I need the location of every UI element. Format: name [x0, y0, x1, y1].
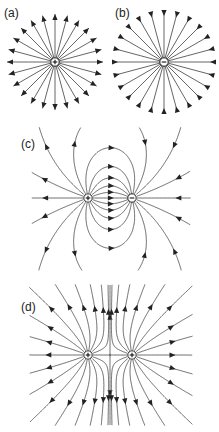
arrow-head: [72, 250, 77, 256]
arrow-head: [133, 399, 138, 406]
arrow-head: [13, 81, 19, 86]
field-line: [74, 128, 86, 194]
arrow-head: [46, 340, 52, 345]
field-line: [30, 316, 85, 352]
arrow-head: [114, 397, 119, 403]
arrow-head: [122, 306, 127, 312]
field-line: [136, 358, 193, 396]
field-line: [32, 172, 84, 196]
field-line: [118, 50, 164, 62]
arrow-head: [52, 14, 57, 20]
field-line: [92, 358, 104, 425]
arrow-head: [169, 365, 175, 370]
arrow-head: [161, 108, 166, 114]
arrow-head: [167, 379, 173, 384]
field-line: [43, 16, 55, 62]
arrow-head: [108, 164, 114, 169]
field-line: [55, 16, 67, 62]
arrow-head: [108, 216, 114, 221]
arrow-head: [108, 201, 114, 206]
arrow-head: [142, 252, 147, 258]
arrow-head: [47, 326, 53, 331]
arrow-head: [13, 38, 19, 43]
field-line: [30, 358, 85, 394]
arrow-head: [122, 398, 127, 404]
arrow-head: [108, 145, 114, 150]
field-line: [43, 62, 55, 108]
arrow-head: [7, 59, 13, 64]
field-line: [152, 16, 164, 62]
field-line: [164, 50, 210, 62]
arrow-head: [47, 378, 53, 383]
arrow-head: [168, 325, 174, 330]
field-line: [130, 360, 145, 426]
arrow-head: [197, 95, 203, 101]
arrow-head: [108, 183, 114, 188]
arrow-head: [108, 246, 114, 251]
field-line: [164, 16, 176, 62]
arrow-head: [93, 398, 98, 404]
arrow-head: [147, 400, 152, 406]
field-line: [152, 62, 164, 108]
arrow-head: [31, 20, 36, 26]
arrow-head: [114, 307, 119, 313]
arrow-head: [93, 306, 98, 312]
field-line: [75, 360, 90, 426]
arrow-head: [67, 400, 72, 406]
field-line: [118, 62, 164, 74]
arrow-head: [112, 59, 118, 64]
arrow-head: [108, 208, 114, 213]
arrow-head: [161, 10, 166, 16]
arrow-head: [31, 97, 36, 103]
arrow-head: [108, 195, 114, 200]
field-line: [164, 62, 210, 74]
arrow-head: [97, 59, 103, 64]
arrow-head: [90, 81, 96, 86]
arrow-head: [74, 97, 79, 103]
field-line: [39, 201, 84, 270]
arrow-head: [187, 16, 192, 22]
field-line: [90, 284, 97, 350]
arrow-head: [169, 340, 175, 345]
arrow-head: [74, 20, 79, 26]
field-line: [116, 285, 128, 352]
arrow-head: [82, 305, 87, 312]
field-line: [135, 286, 193, 351]
arrow-head: [118, 34, 124, 39]
field-line: [136, 314, 193, 351]
field-line: [135, 128, 147, 194]
arrow-head: [197, 23, 203, 29]
arrow-head: [136, 16, 141, 22]
arrow-head: [108, 175, 114, 180]
field-line: [92, 285, 104, 352]
field-line: [136, 201, 181, 270]
field-line: [55, 62, 101, 74]
field-line: [136, 127, 181, 195]
arrow-head: [204, 34, 210, 39]
field-line: [90, 359, 97, 425]
arrow-head: [108, 227, 114, 232]
field-line: [39, 127, 84, 195]
arrow-head: [46, 364, 52, 369]
field-line: [135, 202, 147, 270]
field-line: [75, 284, 90, 350]
arrow-head: [125, 95, 131, 101]
field-line: [137, 171, 191, 196]
field-line: [32, 200, 84, 224]
arrow-head: [125, 23, 131, 29]
arrow-head: [67, 304, 72, 310]
field-line: [137, 200, 191, 225]
arrow-head: [108, 190, 114, 195]
arrow-head: [45, 352, 51, 357]
arrow-head: [42, 195, 48, 200]
arrow-head: [72, 141, 77, 147]
field-line: [55, 50, 101, 62]
field-line: [135, 359, 193, 424]
arrow-head: [101, 307, 106, 313]
arrow-head: [187, 102, 192, 108]
field-lines-diagram: [0, 0, 219, 432]
arrow-head: [147, 304, 152, 310]
field-line: [55, 62, 67, 108]
field-line: [164, 62, 176, 108]
arrow-head: [204, 85, 210, 90]
